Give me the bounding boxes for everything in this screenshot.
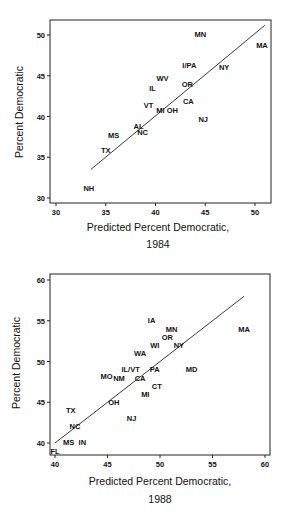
- state-label-ct: CT: [152, 382, 162, 391]
- state-label-mi: MI: [141, 390, 149, 399]
- y-axis-title: Percent Democratic: [13, 66, 25, 158]
- state-label-nj: NJ: [198, 115, 208, 124]
- x-axis-title: Predicted Percent Democratic,: [89, 475, 231, 487]
- y-axis-title: Percent Democratic: [10, 317, 22, 409]
- state-label-tx: TX: [101, 146, 111, 155]
- state-label-wv: WV: [156, 74, 168, 83]
- y-tick-label: 45: [37, 72, 45, 81]
- state-label-ny: NY: [219, 63, 229, 72]
- y-tick-label: 35: [37, 153, 45, 162]
- x-tick-label: 60: [261, 460, 269, 469]
- state-label-i-pa: I/PA: [182, 61, 197, 70]
- state-label-ca: CA: [135, 374, 146, 383]
- state-label-vt: VT: [144, 101, 154, 110]
- x-tick-label: 50: [251, 208, 259, 217]
- state-label-ma: MA: [238, 325, 250, 334]
- y-axis-ticks: 4045505560: [37, 276, 50, 448]
- y-tick-label: 30: [37, 194, 45, 203]
- state-label-wi: WI: [150, 341, 159, 350]
- state-label-fl: FL: [50, 447, 60, 456]
- x-tick-label: 45: [103, 460, 111, 469]
- state-label-tx: TX: [66, 406, 76, 415]
- x-axis-ticks: 4045505560: [51, 455, 269, 469]
- state-label-ma: MA: [256, 41, 268, 50]
- state-label-nm: NM: [113, 374, 125, 383]
- chart-canvas-1984: 3035404550 3035404550 MNMAI/PANYWVORILCA…: [0, 0, 290, 260]
- state-label-ms: MS: [63, 438, 74, 447]
- x-axis-title: Predicted Percent Democratic,: [87, 221, 229, 233]
- chart-canvas-1988: 4045505560 4045505560 IAMNMAORWINYWAIL/V…: [0, 260, 290, 522]
- state-label-nc: NC: [137, 128, 148, 137]
- x-axis-title-year: 1984: [146, 238, 170, 250]
- y-tick-label: 40: [37, 439, 45, 448]
- x-axis-ticks: 3035404550: [52, 203, 259, 217]
- state-label-in: IN: [79, 438, 87, 447]
- scatter-chart-1984: 3035404550 3035404550 MNMAI/PANYWVORILCA…: [0, 0, 290, 260]
- fit-line: [91, 25, 265, 169]
- state-labels: MNMAI/PANYWVORILCAVTMIOHNJALNCMSTXNH: [83, 30, 268, 193]
- state-label-ca: CA: [183, 97, 194, 106]
- state-label-or: OR: [162, 333, 174, 342]
- state-labels: IAMNMAORWINYWAIL/VTPAMDMONMCACTMIOHTXNJN…: [50, 316, 250, 455]
- y-tick-label: 45: [37, 398, 45, 407]
- x-tick-label: 50: [156, 460, 164, 469]
- y-tick-label: 50: [37, 31, 45, 40]
- state-label-wa: WA: [134, 349, 147, 358]
- x-tick-label: 30: [52, 208, 60, 217]
- x-tick-label: 45: [201, 208, 209, 217]
- x-tick-label: 40: [51, 460, 59, 469]
- state-label-nj: NJ: [127, 414, 137, 423]
- state-label-mn: MN: [194, 30, 206, 39]
- state-label-ia: IA: [148, 316, 156, 325]
- state-label-mi: MI: [156, 106, 164, 115]
- state-label-ms: MS: [108, 131, 119, 140]
- state-label-oh: OH: [167, 106, 178, 115]
- state-label-oh: OH: [108, 398, 119, 407]
- state-label-nc: NC: [70, 422, 81, 431]
- scatter-chart-1988: 4045505560 4045505560 IAMNMAORWINYWAIL/V…: [0, 260, 290, 522]
- x-tick-label: 40: [151, 208, 159, 217]
- y-tick-label: 60: [37, 276, 45, 285]
- state-label-or: OR: [182, 80, 194, 89]
- state-label-il: IL: [149, 84, 156, 93]
- x-axis-title-year: 1988: [148, 493, 172, 505]
- y-tick-label: 55: [37, 317, 45, 326]
- x-tick-label: 55: [208, 460, 216, 469]
- state-label-pa: PA: [150, 365, 160, 374]
- state-label-nh: NH: [83, 184, 94, 193]
- state-label-mo: MO: [100, 372, 112, 381]
- state-label-ny: NY: [174, 341, 184, 350]
- plot-frame: [50, 274, 270, 455]
- y-tick-label: 40: [37, 113, 45, 122]
- y-axis-ticks: 3035404550: [37, 31, 50, 203]
- y-tick-label: 50: [37, 358, 45, 367]
- x-tick-label: 35: [102, 208, 110, 217]
- state-label-md: MD: [186, 365, 198, 374]
